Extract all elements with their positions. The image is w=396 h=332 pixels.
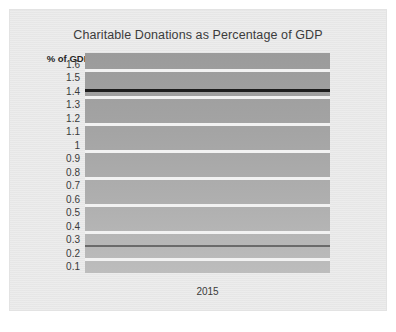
x-axis-category-label: 2015 xyxy=(85,286,330,297)
chart-screenshot: Charitable Donations as Percentage of GD… xyxy=(0,0,396,332)
y-axis-tick-label: 0.9 xyxy=(8,153,80,164)
data-line-series-2 xyxy=(85,245,330,247)
y-axis-tick-label: 0.3 xyxy=(8,234,80,245)
plot-area xyxy=(85,53,330,273)
gridline xyxy=(85,150,330,153)
gridline xyxy=(85,69,330,72)
plot-background xyxy=(85,53,330,273)
gridline xyxy=(85,258,330,261)
y-axis-tick-label: 1.4 xyxy=(8,85,80,96)
y-axis-tick-label: 0.4 xyxy=(8,220,80,231)
data-line-series-1 xyxy=(85,89,330,92)
y-axis-tick-label: 1.2 xyxy=(8,112,80,123)
y-axis-tick-label: 0.2 xyxy=(8,247,80,258)
y-axis-tick-label: 1.1 xyxy=(8,126,80,137)
gridline xyxy=(85,204,330,207)
y-axis-tick-label: 1.5 xyxy=(8,72,80,83)
y-axis-tick-label: 1.6 xyxy=(8,58,80,69)
y-axis-tick-label: 0.1 xyxy=(8,261,80,272)
chart-title: Charitable Donations as Percentage of GD… xyxy=(10,28,386,42)
y-axis-tick-label: 1.3 xyxy=(8,99,80,110)
y-axis-tick-label: 0.7 xyxy=(8,180,80,191)
gridline xyxy=(85,123,330,126)
gridline xyxy=(85,96,330,99)
gridline xyxy=(85,177,330,180)
y-axis-tick-label: 1 xyxy=(8,139,80,150)
y-axis-tick-label: 0.6 xyxy=(8,193,80,204)
y-axis-tick-label: 0.5 xyxy=(8,207,80,218)
y-axis-tick-label: 0.8 xyxy=(8,166,80,177)
gridline xyxy=(85,231,330,234)
